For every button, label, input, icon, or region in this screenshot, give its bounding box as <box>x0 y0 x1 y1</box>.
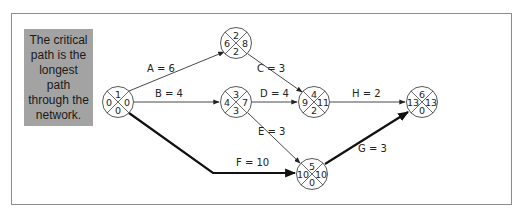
svg-text:4: 4 <box>224 97 230 108</box>
svg-text:0: 0 <box>124 97 130 108</box>
edge-b-label: B = 4 <box>155 88 183 99</box>
edge-c-label: C = 3 <box>257 63 285 74</box>
svg-text:11: 11 <box>317 97 329 108</box>
edge-e-label: E = 3 <box>258 126 285 137</box>
svg-text:9: 9 <box>302 97 308 108</box>
svg-text:1: 1 <box>115 89 121 100</box>
network-diagram: A = 6 B = 4 C = 3 D = 4 E = 3 F = 10 G =… <box>0 0 527 219</box>
node-3: 3 4 7 3 <box>221 87 252 118</box>
svg-text:7: 7 <box>242 97 248 108</box>
svg-text:0: 0 <box>419 105 425 116</box>
svg-text:10: 10 <box>315 169 327 180</box>
edge-d-label: D = 4 <box>260 88 289 99</box>
edge-g-label: G = 3 <box>358 143 387 154</box>
svg-text:3: 3 <box>233 89 239 100</box>
edge-h-label: H = 2 <box>352 88 381 99</box>
svg-text:10: 10 <box>297 169 309 180</box>
svg-text:13: 13 <box>425 97 437 108</box>
node-5: 5 10 10 0 <box>297 159 328 190</box>
edge-d: D = 4 <box>252 88 297 102</box>
svg-text:2: 2 <box>233 46 239 57</box>
edge-e: E = 3 <box>248 113 300 163</box>
svg-text:2: 2 <box>233 30 239 41</box>
svg-text:0: 0 <box>115 105 121 116</box>
svg-text:0: 0 <box>309 177 315 188</box>
edge-h: H = 2 <box>330 88 405 102</box>
node-6: 6 13 13 0 <box>407 87 438 118</box>
node-2: 2 6 8 2 <box>221 28 252 59</box>
svg-text:3: 3 <box>233 105 239 116</box>
svg-text:13: 13 <box>407 97 419 108</box>
edge-b: B = 4 <box>134 88 219 102</box>
edge-f-label: F = 10 <box>236 157 269 168</box>
edge-c: C = 3 <box>248 54 302 92</box>
node-1: 1 0 0 0 <box>103 87 134 118</box>
svg-text:6: 6 <box>224 38 230 49</box>
edge-g-critical: G = 3 <box>325 112 408 164</box>
node-4: 4 9 11 2 <box>299 87 330 118</box>
edge-f-critical: F = 10 <box>129 113 295 173</box>
edge-a-label: A = 6 <box>147 63 175 74</box>
svg-text:0: 0 <box>106 97 112 108</box>
svg-text:8: 8 <box>242 38 248 49</box>
svg-text:2: 2 <box>311 105 317 116</box>
edge-a: A = 6 <box>129 52 224 91</box>
